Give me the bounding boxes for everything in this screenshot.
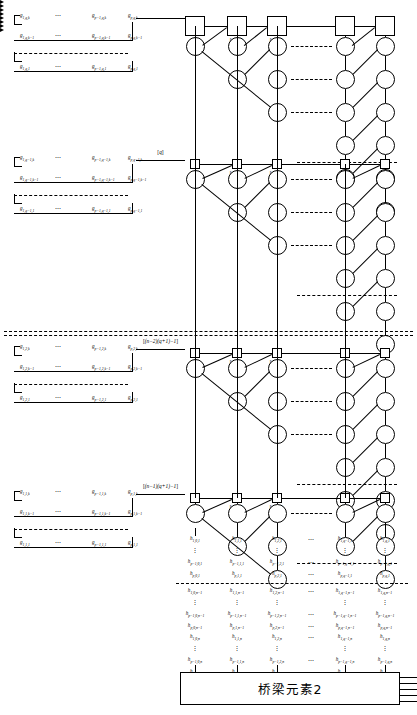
row-dashed-link bbox=[291, 79, 332, 80]
g-variable-label: gp,2,k−1 bbox=[128, 364, 142, 372]
g-block-underline-2 bbox=[14, 71, 132, 72]
h-variable-label: hp−1,0,n bbox=[188, 657, 202, 665]
lattice-circle[interactable] bbox=[268, 504, 287, 523]
row-dashed-link bbox=[291, 368, 332, 369]
g-row-ellipsis: ⋯ bbox=[55, 488, 62, 494]
g-variable-label: gp,q−1,k bbox=[128, 155, 142, 163]
column-vertical-tie bbox=[385, 222, 386, 236]
g-row-ellipsis: ⋯ bbox=[55, 539, 62, 545]
g-variable-label: gp−1,q,1 bbox=[92, 64, 106, 72]
lattice-circle[interactable] bbox=[336, 70, 355, 89]
lattice-circle[interactable] bbox=[376, 458, 395, 477]
matrix-vertical-ellipsis: ⋮ bbox=[382, 547, 388, 553]
diagram-canvas: g1,q,k⋯gp−1,q,kgp,q,kg1,q,k−1⋯gp−1,q,k−1… bbox=[0, 0, 417, 715]
column-vertical-tie bbox=[385, 444, 386, 458]
g-variable-label: g1,2,k bbox=[20, 344, 30, 352]
column-vertical-tie bbox=[345, 56, 346, 70]
h-variable-label: hp,1,1 bbox=[232, 571, 242, 579]
lattice-square[interactable] bbox=[375, 16, 395, 36]
bridge-element-label: 桥梁元素2 bbox=[258, 679, 323, 698]
bridge-output-line bbox=[400, 677, 417, 678]
g-row-ellipsis: ⋯ bbox=[55, 363, 62, 369]
h-variable-label: hp−1,1,n bbox=[230, 657, 244, 665]
inter-section-dashed-separator bbox=[4, 331, 413, 332]
g-block-dashed-separator bbox=[14, 53, 128, 54]
diagonal-connector bbox=[352, 248, 378, 274]
lattice-circle[interactable] bbox=[376, 302, 395, 321]
output-stem bbox=[345, 528, 346, 536]
lattice-square[interactable] bbox=[380, 348, 390, 358]
column-vertical-tie bbox=[345, 89, 346, 103]
matrix-vertical-ellipsis: ⋮ bbox=[342, 645, 348, 651]
column-vertical-tie bbox=[385, 503, 386, 504]
square-bus-dashed-gap bbox=[286, 164, 336, 165]
diagonal-connector bbox=[352, 182, 378, 208]
h-variable-label: hp−1,0,n−1 bbox=[186, 611, 205, 619]
lattice-circle[interactable] bbox=[376, 103, 395, 122]
lattice-circle[interactable] bbox=[336, 136, 355, 155]
g-variable-label: g1,1,k−1 bbox=[20, 509, 34, 517]
lattice-square[interactable] bbox=[335, 16, 355, 36]
row-dashed-link bbox=[291, 434, 332, 435]
g-variable-label: gp−1,2,1 bbox=[92, 395, 106, 403]
g-variable-label: gp,2,1 bbox=[128, 395, 138, 403]
lattice-circle[interactable] bbox=[376, 136, 395, 155]
row-dashed-link bbox=[291, 46, 332, 47]
diagonal-connector bbox=[352, 49, 378, 75]
diagonal-connector bbox=[244, 49, 270, 75]
lattice-circle[interactable] bbox=[376, 359, 395, 378]
matrix-vertical-ellipsis: ⋮ bbox=[234, 547, 240, 553]
lattice-square[interactable] bbox=[380, 493, 390, 503]
column-vertical-tie bbox=[385, 358, 386, 359]
column-vertical-tie bbox=[385, 255, 386, 269]
lattice-circle[interactable] bbox=[376, 392, 395, 411]
bridge-element-box[interactable]: 桥梁元素2 bbox=[180, 672, 400, 705]
h-variable-label: h1,0,n−1 bbox=[188, 588, 202, 596]
h-variable-label: hp−1,1,n−1 bbox=[228, 611, 247, 619]
lattice-circle[interactable] bbox=[376, 170, 395, 189]
h-variable-label: h1,2,1 bbox=[272, 536, 282, 544]
diagonal-connector bbox=[352, 27, 375, 46]
h-variable-label: hp,1,n−1 bbox=[230, 623, 244, 631]
lattice-circle[interactable] bbox=[336, 103, 355, 122]
g-variable-label: gp−1,q,k bbox=[92, 13, 106, 21]
g-variable-label: g1,2,k−1 bbox=[20, 364, 34, 372]
h-variable-label: hp,2,n−1 bbox=[270, 623, 284, 631]
square-bus-dashed-gap bbox=[286, 498, 336, 499]
h-variable-label: hp−1,2,n bbox=[270, 657, 284, 665]
lattice-circle[interactable] bbox=[376, 37, 395, 56]
lattice-circle[interactable] bbox=[376, 70, 395, 89]
g-variable-label: gp,q,k−1 bbox=[128, 33, 142, 41]
h-variable-label: hp,2,1 bbox=[272, 571, 282, 579]
column-vertical-tie bbox=[385, 411, 386, 425]
h-variable-label: hp−1,q,n−1 bbox=[376, 611, 395, 619]
h-variable-label: h1,2,n−1 bbox=[270, 588, 284, 596]
diagonal-connector bbox=[244, 27, 267, 46]
h-variable-label: hp,q−1,1 bbox=[338, 571, 352, 579]
vertical-trunk-line bbox=[195, 26, 196, 498]
matrix-row-ellipsis: ⋯ bbox=[308, 611, 315, 617]
g-row-ellipsis: ⋯ bbox=[55, 32, 62, 38]
lattice-circle[interactable] bbox=[376, 425, 395, 444]
lattice-square[interactable] bbox=[380, 159, 390, 169]
g-variable-label: gp,q−1,1 bbox=[128, 206, 142, 214]
g-variable-label: gp−1,q−1,k bbox=[92, 155, 110, 163]
g-variable-label: gp−1,q,k−1 bbox=[92, 33, 110, 41]
lattice-circle[interactable] bbox=[376, 269, 395, 288]
lattice-circle[interactable] bbox=[376, 203, 395, 222]
matrix-row-ellipsis: ⋯ bbox=[308, 634, 315, 640]
matrix-row-ellipsis: ⋯ bbox=[308, 657, 315, 663]
g-variable-label: gp−1,1,k−1 bbox=[92, 509, 110, 517]
h-variable-label: hp−1,q−1,n bbox=[336, 657, 355, 665]
square-bus-dashed-gap bbox=[286, 353, 336, 354]
lattice-circle[interactable] bbox=[376, 504, 395, 523]
matrix-group-dashed-separator bbox=[176, 583, 408, 584]
h-variable-label: hp−1,q−1,n−1 bbox=[334, 611, 357, 619]
lattice-circle[interactable] bbox=[376, 236, 395, 255]
g-row-ellipsis: ⋯ bbox=[55, 343, 62, 349]
g-variable-label: gp,q,1 bbox=[128, 64, 138, 72]
g-variable-label: gp−1,2,k−1 bbox=[92, 364, 110, 372]
bridge-output-line bbox=[400, 689, 417, 690]
diagonal-connector bbox=[244, 516, 270, 542]
h-variable-label: h1,q−1,n bbox=[338, 634, 352, 642]
